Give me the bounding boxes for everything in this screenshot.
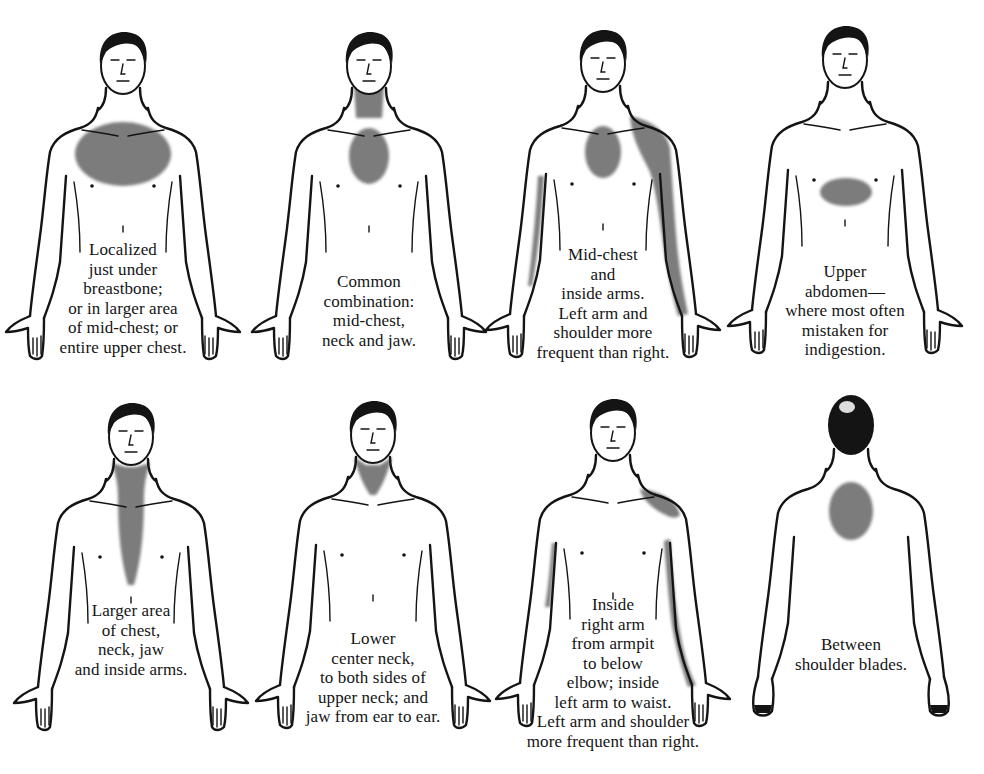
caption-line: to below [490, 654, 736, 674]
caption-line: combination: [246, 292, 492, 312]
caption-line: frequent than right. [480, 343, 726, 363]
caption: Common combination: mid-chest, neck and … [246, 272, 492, 350]
caption-line: abdomen— [722, 282, 968, 302]
caption: Inside right arm from armpit to below el… [490, 595, 736, 751]
caption-line: left arm to waist. [490, 693, 736, 713]
panel-mid-chest-inside-arms: Mid-chest and inside arms. Left arm and … [480, 0, 726, 387]
caption-line: Inside [490, 595, 736, 615]
caption-line: from armpit [490, 634, 736, 654]
pain-region-mid-chest [585, 126, 621, 178]
caption: Mid-chest and inside arms. Left arm and … [480, 245, 726, 362]
caption-line: Lower [250, 629, 496, 649]
caption: Upper abdomen— where most often mistaken… [722, 262, 968, 360]
figure-back-8 [728, 387, 974, 774]
caption-line: breastbone; [0, 279, 246, 299]
caption-line: Common [246, 272, 492, 292]
caption-line: Mid-chest [480, 245, 726, 265]
pain-region-upper-abdomen [820, 178, 872, 206]
caption-line: Left arm and [480, 304, 726, 324]
panel-mid-chest-neck-jaw: Common combination: mid-chest, neck and … [246, 0, 492, 387]
caption-line: upper neck; and [250, 688, 496, 708]
caption-line: mid-chest, [246, 311, 492, 331]
caption-line: more frequent than right. [490, 732, 736, 752]
caption-line: shoulder blades. [728, 655, 974, 675]
caption-line: entire upper chest. [0, 338, 246, 358]
caption-line: and inside arms. [8, 660, 254, 680]
caption-line: and [480, 265, 726, 285]
caption-line: Upper [722, 262, 968, 282]
caption-line: shoulder more [480, 323, 726, 343]
caption-line: jaw from ear to ear. [250, 707, 496, 727]
caption-line: Left arm and shoulder [490, 712, 736, 732]
caption-line: Between [728, 635, 974, 655]
pain-region-jaw-neck-chest [112, 463, 150, 585]
caption-line: to both sides of [250, 668, 496, 688]
caption-line: indigestion. [722, 340, 968, 360]
caption-line: neck, jaw [8, 640, 254, 660]
caption-line: inside arms. [480, 284, 726, 304]
caption-line: Localized [0, 240, 246, 260]
caption-line: of chest, [8, 621, 254, 641]
caption-line: just under [0, 260, 246, 280]
caption: Localized just under breastbone; or in l… [0, 240, 246, 357]
figure-front-5 [8, 387, 254, 774]
caption-line: neck and jaw. [246, 331, 492, 351]
panel-inside-arms: Inside right arm from armpit to below el… [490, 387, 736, 774]
panel-between-shoulder-blades: Between shoulder blades. [728, 387, 974, 774]
caption-line: of mid-chest; or [0, 318, 246, 338]
panel-chest-neck-jaw-arms: Larger area of chest, neck, jaw and insi… [8, 387, 254, 774]
caption-line: Larger area [8, 601, 254, 621]
caption-line: or in larger area [0, 299, 246, 319]
caption-line: center neck, [250, 649, 496, 669]
caption: Larger area of chest, neck, jaw and insi… [8, 601, 254, 679]
pain-region-between-shoulder-blades [829, 482, 873, 540]
caption: Between shoulder blades. [728, 635, 974, 674]
caption-line: right arm [490, 615, 736, 635]
caption-line: elbow; inside [490, 673, 736, 693]
panel-upper-abdomen: Upper abdomen— where most often mistaken… [722, 0, 968, 387]
pain-region-mid-chest [349, 128, 389, 184]
caption-line: mistaken for [722, 321, 968, 341]
caption: Lower center neck, to both sides of uppe… [250, 629, 496, 727]
panel-localized-chest: Localized just under breastbone; or in l… [0, 0, 246, 387]
caption-line: where most often [722, 301, 968, 321]
panel-lower-neck-jaw: Lower center neck, to both sides of uppe… [250, 387, 496, 774]
